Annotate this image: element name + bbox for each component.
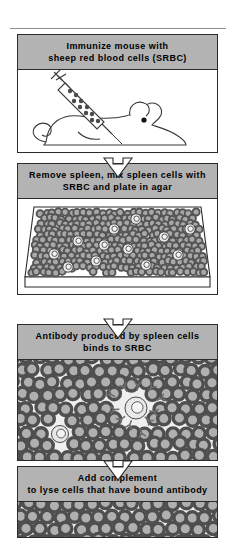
srbc-cell xyxy=(18,537,28,538)
mouse-illustration xyxy=(18,70,217,152)
srbc-cell xyxy=(109,269,116,276)
srbc-cell xyxy=(100,376,112,388)
srbc-cell xyxy=(207,450,217,460)
srbc-cell xyxy=(87,427,99,439)
srbc-cell xyxy=(85,360,97,363)
srbc-cell xyxy=(211,414,217,426)
srbc-cell xyxy=(132,365,144,377)
srbc-cell xyxy=(212,364,217,376)
down-arrow-icon-1 xyxy=(101,157,135,179)
srbc-cell xyxy=(48,451,60,460)
srbc-cell xyxy=(193,449,205,460)
srbc-cell xyxy=(211,389,218,401)
srbc-cell xyxy=(207,426,217,438)
srbc-cell xyxy=(191,378,203,390)
srbc-cell xyxy=(214,438,217,450)
srbc-cell xyxy=(173,412,185,424)
srbc-cell xyxy=(125,502,137,509)
header-line-2: SRBC and plate in agar xyxy=(21,181,214,193)
srbc-cell xyxy=(147,534,159,537)
srbc-cell xyxy=(174,437,186,449)
srbc-cell xyxy=(141,230,148,237)
srbc-cell xyxy=(107,536,119,537)
srbc-cell xyxy=(59,522,71,534)
spleen-cell-nucleus xyxy=(57,429,66,438)
srbc-cell xyxy=(160,509,172,521)
srbc-cell xyxy=(207,522,217,534)
srbc-cell xyxy=(125,379,137,391)
srbc-cell xyxy=(169,269,176,276)
srbc-cell xyxy=(42,413,54,425)
srbc-cell xyxy=(172,388,184,400)
srbc-cell xyxy=(154,451,166,460)
srbc-cell xyxy=(40,536,52,537)
spleen-cell-nucleus xyxy=(188,226,193,231)
spleen-cell-nucleus xyxy=(144,262,149,267)
agar-dish-illustration xyxy=(18,199,217,294)
srbc-cell xyxy=(100,425,112,437)
srbc-cell xyxy=(118,438,130,450)
srbc-cell xyxy=(161,534,173,537)
srbc-cell xyxy=(192,360,204,363)
header-line-2: sheep red blood cells (SRBC) xyxy=(21,52,214,64)
srbc-cell xyxy=(26,510,38,522)
complement-field-illustration xyxy=(18,502,217,537)
srbc-cell xyxy=(20,522,32,534)
srbc-cell xyxy=(141,452,153,461)
srbc-cell xyxy=(33,451,45,460)
step-panel-immunize: Immunize mouse with sheep red blood cell… xyxy=(17,34,218,153)
header-line-1: Immunize mouse with xyxy=(21,40,214,52)
srbc-cell xyxy=(180,502,192,509)
srbc-cell xyxy=(199,536,211,537)
srbc-cell xyxy=(72,453,84,461)
spleen-cell-nucleus xyxy=(112,226,117,231)
spleen-cell-nucleus xyxy=(162,234,167,239)
srbc-cell xyxy=(120,535,132,538)
srbc-cell xyxy=(53,363,65,375)
srbc-cell xyxy=(128,452,140,460)
srbc-cell xyxy=(179,523,191,535)
step-panel-plate: Remove spleen, mix spleen cells with SRB… xyxy=(17,163,218,295)
srbc-cell xyxy=(184,537,196,538)
plaque-assay-figure: Immunize mouse with sheep red blood cell… xyxy=(0,0,236,545)
srbc-cell xyxy=(113,521,125,533)
srbc-cell xyxy=(93,439,105,451)
srbc-cell xyxy=(41,510,53,522)
antibody-field-illustration xyxy=(18,360,217,460)
srbc-cell xyxy=(28,437,40,449)
srbc-cell xyxy=(127,521,139,533)
srbc-cell xyxy=(95,412,107,424)
top-divider xyxy=(10,28,226,29)
srbc-cell xyxy=(186,390,198,402)
srbc-cell xyxy=(86,502,98,511)
srbc-cell xyxy=(200,269,207,276)
srbc-cell xyxy=(159,438,171,450)
srbc-cell xyxy=(92,388,104,400)
srbc-cell xyxy=(66,535,78,537)
srbc-cell xyxy=(192,524,204,536)
srbc-cell xyxy=(45,269,52,276)
spleen-cell-nucleus xyxy=(94,258,99,263)
srbc-cell xyxy=(146,511,158,523)
step-panel-antibody: Antibody produced by spleen cells binds … xyxy=(17,324,218,461)
header-line-2: to lyse cells that have bound antibody xyxy=(21,484,214,496)
srbc-cell xyxy=(82,414,94,426)
srbc-cell xyxy=(158,412,170,424)
srbc-cell xyxy=(126,235,133,242)
srbc-cell xyxy=(206,402,217,414)
srbc-cell xyxy=(85,452,97,460)
header-line-2: binds to SRBC xyxy=(21,342,214,354)
srbc-cell xyxy=(146,388,158,400)
srbc-cell xyxy=(34,522,46,534)
srbc-cell xyxy=(35,502,47,510)
srbc-cell xyxy=(26,414,38,426)
srbc-cell xyxy=(92,533,104,537)
srbc-cell xyxy=(67,387,79,399)
srbc-cell xyxy=(79,262,86,269)
srbc-cell xyxy=(100,452,112,460)
srbc-cell xyxy=(132,535,144,537)
srbc-cell xyxy=(33,268,40,275)
srbc-cell xyxy=(54,536,66,537)
spleen-cell-nucleus xyxy=(76,238,81,243)
srbc-cell xyxy=(167,453,179,461)
